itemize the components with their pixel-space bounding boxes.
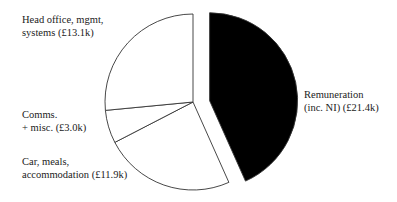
label-line: systems (£13.1k) <box>22 27 103 40</box>
label-line: Comms. <box>22 109 86 122</box>
pie-slice <box>105 14 193 110</box>
label-head-office: Head office, mgmt, systems (£13.1k) <box>22 14 103 39</box>
label-line: Remuneration <box>304 89 379 102</box>
label-car-meals: Car, meals, accommodation (£11.9k) <box>22 156 127 181</box>
label-line: accommodation (£11.9k) <box>22 169 127 182</box>
pie-slice <box>210 13 298 181</box>
label-line: + misc. (£3.0k) <box>22 122 86 135</box>
label-comms: Comms. + misc. (£3.0k) <box>22 109 86 134</box>
label-line: Car, meals, <box>22 156 127 169</box>
label-line: Head office, mgmt, <box>22 14 103 27</box>
label-remuneration: Remuneration (inc. NI) (£21.4k) <box>304 89 379 114</box>
label-line: (inc. NI) (£21.4k) <box>304 102 379 115</box>
